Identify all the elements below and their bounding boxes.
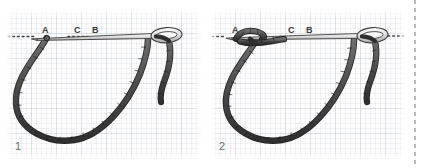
- panel-1-artwork: [6, 8, 202, 160]
- point-label-a: A: [42, 26, 49, 35]
- thread-loop: [16, 38, 148, 141]
- point-label-b: B: [92, 26, 99, 35]
- page-divider-dashed-line: [414, 0, 416, 168]
- point-label-b: B: [306, 26, 313, 35]
- diagram-panel-2: A C B 2: [210, 8, 406, 160]
- point-label-a: A: [232, 26, 239, 35]
- right-margin: [416, 0, 424, 168]
- thread-entry-point-a: [44, 36, 49, 41]
- thread-tail: [157, 41, 170, 102]
- point-label-c: C: [74, 26, 81, 35]
- thread-loop: [226, 40, 354, 141]
- stitch-diagram-figure: A C B 1: [0, 0, 424, 168]
- needle: [32, 27, 183, 44]
- diagram-panel-1: A C B 1: [6, 8, 202, 160]
- point-label-c: C: [288, 26, 295, 35]
- thread-tail: [363, 41, 376, 102]
- step-number-2: 2: [219, 141, 225, 152]
- step-number-1: 1: [15, 141, 21, 152]
